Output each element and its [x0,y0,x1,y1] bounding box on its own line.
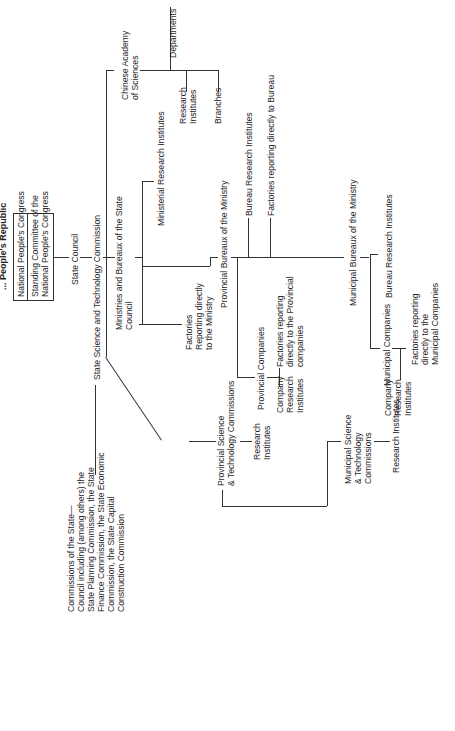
node-ministries: Ministries and Bureaux of the State Coun… [114,196,134,330]
node-cas: Chinese Academy of Sciences [120,31,140,100]
connector [360,257,369,258]
connector [392,348,406,349]
npc-standing-committee-label: Standing Committee of the National Peopl… [30,191,50,297]
connector [210,257,218,258]
connector [374,441,390,442]
connector [142,181,154,182]
connector [370,254,378,255]
node-commissions: Commissions of the State— Council includ… [66,452,126,612]
connector [105,357,162,440]
connector [270,218,271,257]
node-municipal-bureau-ri: Bureau Research Institutes [384,194,394,298]
connector [210,257,211,266]
connector [240,441,252,442]
node-provincial-stc: Provincial Science & Technology Commissi… [216,381,236,486]
npc-label: National People's Congress [16,191,26,297]
node-ministerial-research-institutes: Ministerial Research Institutes [156,111,166,226]
node-state-council: State Council [70,234,80,285]
connector [140,70,218,71]
node-provincial-stc-ri: Research Institutes [252,423,272,460]
connector [106,70,114,71]
node-company-ri-provincial: Company Research Institutes [275,376,305,413]
node-provincial-companies: Provincial Companies [256,327,266,410]
npc-box-divider [27,213,28,300]
connector [231,257,344,258]
node-factories-bureau: Factories reporting directly to Bureau [266,75,276,216]
connector [237,257,238,377]
node-branches: Branches [213,88,223,124]
node-provincial-bureaux: Provincial Bureaux of the Ministry [219,180,229,308]
connector [370,348,380,349]
connector [237,377,255,378]
chart-title: ... People's Republic [0,203,8,290]
connector [222,506,327,507]
connector [142,181,143,324]
node-factories-ministry: Factories Reporting directly to the Mini… [184,283,214,350]
connector [400,348,401,380]
connector [327,441,341,442]
node-bureau-research-institutes: Bureau Research Institutes [244,112,254,216]
connector [248,218,249,257]
node-sstc: State Science and Technology Commission [92,215,102,380]
node-municipal-bureaux: Municipal Bureaux of the Ministry [348,179,358,306]
node-factories-provincial: Factories reporting directly to the Prov… [275,276,305,367]
node-cas-research-institutes: Research Institutes [178,87,198,124]
org-chart: ... People's Republic National People's … [0,0,455,731]
node-departments: Departments [168,9,178,58]
connector [80,257,92,258]
node-municipal-stc-ri: Research Institutes [391,399,401,473]
connector [222,490,223,506]
connector [189,441,216,442]
node-municipal-stc: Municipal Science & Technology Commissio… [343,415,373,484]
connector [327,441,328,506]
node-municipal-companies: Municipal Companies [382,304,392,386]
connector [142,266,210,267]
connector [139,324,182,325]
connector [370,254,371,348]
node-factories-municipal: Factories reporting directly to the Muni… [410,283,440,365]
connector [106,70,107,357]
connector [53,257,69,258]
